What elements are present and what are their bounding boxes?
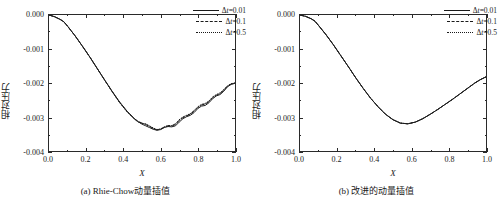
axis-tick (299, 49, 303, 50)
x-axis-title-b: X (299, 168, 487, 178)
axis-tick (299, 152, 303, 153)
x-tick-label: 0.2 (332, 155, 342, 164)
axis-tick (48, 31, 50, 32)
x-tick-label: 1.0 (482, 155, 492, 164)
axis-tick (337, 148, 338, 152)
axis-tick (142, 14, 143, 16)
axis-tick (299, 118, 303, 119)
axis-tick (468, 150, 469, 152)
axis-tick (393, 14, 394, 16)
y-tick-label: -0.004 (251, 148, 295, 157)
axis-tick (449, 148, 450, 152)
axis-tick (104, 14, 105, 16)
axis-tick (48, 118, 52, 119)
axis-tick (412, 148, 413, 152)
legend-label: Δt=0.1 (476, 16, 497, 27)
x-axis-title-a: X (48, 168, 236, 178)
axis-tick (318, 14, 319, 16)
axis-tick (412, 14, 413, 18)
y-tick-label: -0.002 (0, 79, 44, 88)
axis-tick (299, 66, 301, 67)
y-tick-label: -0.004 (0, 148, 44, 157)
axis-tick (483, 49, 487, 50)
axis-tick (318, 150, 319, 152)
axis-tick (299, 135, 301, 136)
axis-tick (483, 118, 487, 119)
legend-label: Δt=0.1 (225, 16, 246, 27)
axis-tick (431, 150, 432, 152)
panel-caption-b: (b) 改进的动量插值 (251, 184, 502, 197)
axis-tick (123, 14, 124, 18)
panel-caption-a: (a) Rhie-Chow动量插值 (0, 184, 251, 197)
legend-key-dashed-icon (447, 17, 473, 26)
x-tick-label: 0.8 (193, 155, 203, 164)
axis-tick (48, 83, 52, 84)
legend-label: Δt=0.01 (473, 5, 497, 16)
axis-tick (232, 152, 236, 153)
x-tick-label: 0.6 (407, 155, 417, 164)
legend-key-dotted-icon (447, 28, 473, 37)
legend-b: Δt=0.01 Δt=0.1 Δt=0.5 (444, 5, 497, 38)
axis-tick (180, 150, 181, 152)
axis-tick (180, 14, 181, 16)
legend-key-dotted-icon (196, 28, 222, 37)
x-tick-label: 1.0 (231, 155, 241, 164)
legend-a: Δt=0.01 Δt=0.1 Δt=0.5 (193, 5, 246, 38)
y-tick-label: 0.000 (251, 10, 295, 19)
axis-tick (67, 14, 68, 16)
axis-tick (485, 135, 487, 136)
axis-tick (299, 14, 303, 15)
axis-tick (299, 31, 301, 32)
axis-tick (236, 148, 237, 152)
legend-key-dashed-icon (196, 17, 222, 26)
legend-item: Δt=0.01 (444, 5, 497, 16)
x-tick-label: 0.8 (444, 155, 454, 164)
axis-tick (483, 83, 487, 84)
axis-tick (483, 152, 487, 153)
y-tick-label: -0.003 (0, 113, 44, 122)
x-tick-label: 0.4 (118, 155, 128, 164)
axis-tick (86, 14, 87, 18)
x-tick-label: 0.0 (43, 155, 53, 164)
legend-key-solid-icon (444, 6, 470, 15)
x-tick-label: 0.0 (294, 155, 304, 164)
legend-item: Δt=0.01 (193, 5, 246, 16)
axis-tick (374, 14, 375, 18)
axis-tick (393, 150, 394, 152)
y-tick-label: -0.001 (251, 44, 295, 53)
legend-item: Δt=0.5 (193, 27, 246, 38)
axis-tick (299, 83, 303, 84)
axis-tick (67, 150, 68, 152)
x-tick-label: 0.4 (369, 155, 379, 164)
x-tick-label: 0.6 (156, 155, 166, 164)
axis-tick (48, 14, 52, 15)
panel-a: 相对压力 0.000-0.001-0.002-0.003-0.004 0.00.… (0, 0, 251, 213)
axis-tick (142, 150, 143, 152)
axis-tick (232, 118, 236, 119)
legend-item: Δt=0.5 (444, 27, 497, 38)
legend-label: Δt=0.01 (222, 5, 246, 16)
x-tick-label: 0.2 (81, 155, 91, 164)
axis-tick (374, 148, 375, 152)
figure-two-panel-line-charts: 相对压力 0.000-0.001-0.002-0.003-0.004 0.00.… (0, 0, 502, 213)
legend-label: Δt=0.5 (476, 27, 497, 38)
axis-tick (48, 152, 52, 153)
axis-tick (48, 49, 52, 50)
legend-label: Δt=0.5 (225, 27, 246, 38)
axis-tick (431, 14, 432, 16)
panel-b: 相对压力 0.000-0.001-0.002-0.003-0.004 0.00.… (251, 0, 502, 213)
legend-item: Δt=0.1 (193, 16, 246, 27)
axis-tick (104, 150, 105, 152)
axis-tick (48, 135, 50, 136)
axis-tick (337, 14, 338, 18)
y-tick-label: -0.003 (251, 113, 295, 122)
axis-tick (234, 66, 236, 67)
axis-tick (355, 150, 356, 152)
axis-tick (299, 100, 301, 101)
axis-tick (487, 148, 488, 152)
axis-tick (485, 100, 487, 101)
axis-tick (217, 150, 218, 152)
axis-tick (86, 148, 87, 152)
legend-item: Δt=0.1 (444, 16, 497, 27)
axis-tick (161, 14, 162, 18)
